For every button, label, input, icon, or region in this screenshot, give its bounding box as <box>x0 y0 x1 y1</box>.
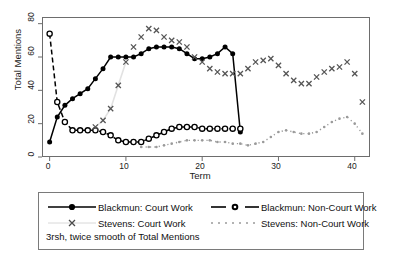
legend-label-blackmun-court: Blackmun: Court Work <box>98 202 193 213</box>
legend-entry-stevens-court: Stevens: Court Work <box>46 215 185 231</box>
legend-entry-blackmun-court: Blackmun: Court Work <box>46 199 193 215</box>
series-stevens-court-work <box>93 26 365 130</box>
legend-key-stevens-court <box>46 216 98 230</box>
legend-key-blackmun-court <box>46 200 98 214</box>
legend-label-stevens-court: Stevens: Court Work <box>98 218 185 229</box>
series-stevens-non-court-work <box>140 116 364 149</box>
legend-note: 3rsh, twice smooth of Total Mentions <box>46 231 199 242</box>
legend-key-blackmun-noncourt <box>209 200 261 214</box>
legend-key-stevens-noncourt <box>209 216 261 230</box>
legend-label-blackmun-noncourt: Blackmun: Non-Court Work <box>261 202 376 213</box>
legend-label-stevens-noncourt: Stevens: Non-Court Work <box>261 218 369 229</box>
legend-entry-stevens-noncourt: Stevens: Non-Court Work <box>209 215 369 231</box>
legend-entry-blackmun-noncourt: Blackmun: Non-Court Work <box>209 199 376 215</box>
series-blackmun-court-work <box>47 45 243 145</box>
plot-area: Total Mentions 0 20 40 60 80 0 10 20 30 … <box>0 0 400 182</box>
chart-figure: Total Mentions 0 20 40 60 80 0 10 20 30 … <box>0 0 400 261</box>
series-blackmun-non-court-work <box>47 31 243 145</box>
chart-legend: Blackmun: Court Work Blackmun: Non-Court… <box>38 192 364 250</box>
chart-series-layer <box>0 0 400 182</box>
